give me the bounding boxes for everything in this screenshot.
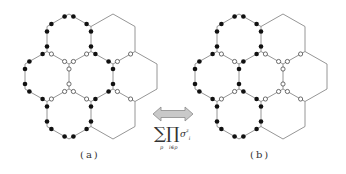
filled-spin-dot	[254, 22, 259, 27]
filled-spin-dot	[259, 29, 264, 34]
lattice-edge	[283, 14, 305, 27]
filled-spin-dot	[241, 89, 246, 94]
lattice-edge	[91, 127, 113, 140]
filled-spin-dot	[106, 59, 111, 64]
open-spin-dot	[71, 59, 75, 63]
filled-spin-dot	[215, 44, 220, 49]
open-spin-dot	[129, 52, 133, 56]
filled-spin-dot	[62, 134, 67, 139]
filled-spin-dot	[89, 104, 94, 109]
filled-spin-dot	[89, 119, 94, 124]
filled-spin-dot	[241, 134, 246, 139]
filled-spin-dot	[111, 82, 116, 87]
filled-spin-dot	[210, 97, 215, 102]
sum-subscript: p	[160, 144, 163, 150]
lattice-edge	[305, 89, 327, 102]
filled-spin-dot	[237, 82, 242, 87]
filled-spin-dot	[49, 127, 54, 132]
filled-spin-dot	[23, 82, 28, 87]
open-spin-dot	[281, 67, 285, 71]
filled-spin-dot	[106, 89, 111, 94]
lattice-edge	[283, 127, 305, 140]
sum-symbol: ∑	[154, 125, 166, 142]
open-spin-dot	[285, 59, 289, 63]
filled-spin-dot	[62, 14, 67, 19]
panel-b-lattice	[193, 14, 327, 139]
filled-spin-dot	[241, 14, 246, 19]
open-spin-dot	[277, 59, 281, 63]
filled-spin-dot	[27, 59, 32, 64]
double-arrow-icon	[153, 107, 193, 121]
lattice-edge	[135, 52, 157, 65]
open-spin-dot	[281, 82, 285, 86]
lattice-edge	[135, 89, 157, 102]
filled-spin-dot	[84, 127, 89, 132]
open-spin-dot	[63, 89, 67, 93]
open-spin-dot	[285, 89, 289, 93]
filled-spin-dot	[219, 127, 224, 132]
lattice-edge	[261, 127, 283, 140]
filled-spin-dot	[241, 59, 246, 64]
panel-a-lattice	[23, 14, 157, 139]
open-spin-dot	[277, 89, 281, 93]
open-spin-dot	[219, 97, 223, 101]
filled-spin-dot	[254, 127, 259, 132]
filled-spin-dot	[259, 104, 264, 109]
lattice-edge	[91, 14, 113, 27]
filled-spin-dot	[45, 29, 50, 34]
filled-spin-dot	[210, 52, 215, 57]
filled-spin-dot	[49, 22, 54, 27]
filled-spin-dot	[215, 29, 220, 34]
filled-spin-dot	[40, 97, 45, 102]
filled-spin-dot	[45, 104, 50, 109]
filled-spin-dot	[254, 97, 259, 102]
open-spin-dot	[115, 59, 119, 63]
filled-spin-dot	[259, 119, 264, 124]
open-spin-dot	[219, 52, 223, 56]
sigma-subscript: i	[189, 135, 191, 141]
filled-spin-dot	[193, 67, 198, 72]
filled-spin-dot	[197, 89, 202, 94]
panel-a-caption: (a)	[80, 149, 100, 160]
product-subscript: i∈p	[169, 144, 178, 150]
filled-spin-dot	[232, 134, 237, 139]
filled-spin-dot	[84, 22, 89, 27]
filled-spin-dot	[215, 119, 220, 124]
open-spin-dot	[85, 52, 89, 56]
lattice-edge	[113, 127, 135, 140]
filled-spin-dot	[71, 14, 76, 19]
filled-spin-dot	[40, 52, 45, 57]
filled-spin-dot	[27, 89, 32, 94]
open-spin-dot	[49, 97, 53, 101]
filled-spin-dot	[71, 134, 76, 139]
open-spin-dot	[263, 97, 267, 101]
sigma-superscript: z	[186, 127, 189, 133]
filled-spin-dot	[89, 44, 94, 49]
lattice-edge	[305, 52, 327, 65]
product-symbol: ∏	[166, 125, 180, 142]
filled-spin-dot	[237, 67, 242, 72]
open-spin-dot	[299, 97, 303, 101]
panel-b-caption: (b)	[250, 149, 270, 160]
filled-spin-dot	[232, 14, 237, 19]
open-spin-dot	[299, 52, 303, 56]
open-spin-dot	[63, 59, 67, 63]
filled-spin-dot	[254, 52, 259, 57]
filled-spin-dot	[45, 44, 50, 49]
filled-spin-dot	[259, 44, 264, 49]
filled-spin-dot	[215, 104, 220, 109]
open-spin-dot	[233, 59, 237, 63]
filled-spin-dot	[219, 22, 224, 27]
open-spin-dot	[71, 89, 75, 93]
filled-spin-dot	[111, 67, 116, 72]
filled-spin-dot	[93, 97, 98, 102]
lattice-edge	[113, 14, 135, 27]
operator-formula: ∑ ∏ σzi p i∈p	[152, 124, 198, 154]
filled-spin-dot	[197, 59, 202, 64]
sigma-term: σzi	[180, 128, 190, 141]
open-spin-dot	[263, 52, 267, 56]
open-spin-dot	[49, 52, 53, 56]
open-spin-dot	[67, 67, 71, 71]
open-spin-dot	[115, 89, 119, 93]
filled-spin-dot	[23, 67, 28, 72]
